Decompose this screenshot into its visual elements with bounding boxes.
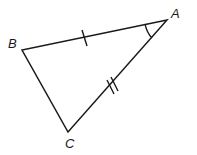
vertex-label-c: C <box>65 136 75 151</box>
triangle-diagram: A B C <box>0 0 197 155</box>
vertex-label-a: A <box>170 6 180 21</box>
vertex-label-b: B <box>8 36 17 51</box>
angle-arc-a <box>145 24 152 38</box>
triangle-abc <box>22 20 167 132</box>
